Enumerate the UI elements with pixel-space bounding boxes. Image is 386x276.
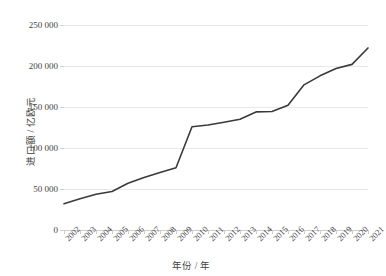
y-tick-label: 150 000 xyxy=(12,103,58,112)
y-tick-label: 100 000 xyxy=(12,144,58,153)
y-tick-label: 0 xyxy=(12,226,58,235)
y-tick-label: 50 000 xyxy=(12,185,58,194)
x-axis-title: 年份 / 年 xyxy=(0,258,382,272)
x-tick-label: 2021 xyxy=(367,224,386,243)
y-tick-label: 250 000 xyxy=(12,21,58,30)
y-axis-tick-labels: 250 000 200 000 150 000 100 000 50 000 0 xyxy=(8,0,58,276)
data-series-line xyxy=(64,25,368,230)
y-tick-label: 200 000 xyxy=(12,62,58,71)
plot-area xyxy=(64,25,368,230)
